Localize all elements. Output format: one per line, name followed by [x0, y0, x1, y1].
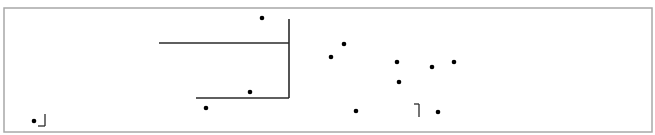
dot — [430, 65, 435, 70]
dot — [204, 106, 209, 111]
dot — [395, 60, 400, 65]
dot — [436, 110, 441, 115]
diagram-background — [0, 0, 655, 135]
dot — [32, 119, 37, 124]
diagram-canvas — [0, 0, 655, 135]
dot — [397, 80, 402, 85]
dot — [342, 42, 347, 47]
dot — [260, 16, 265, 21]
dot — [329, 55, 334, 60]
dot — [354, 109, 359, 114]
dot — [452, 60, 457, 65]
dot — [248, 90, 253, 95]
